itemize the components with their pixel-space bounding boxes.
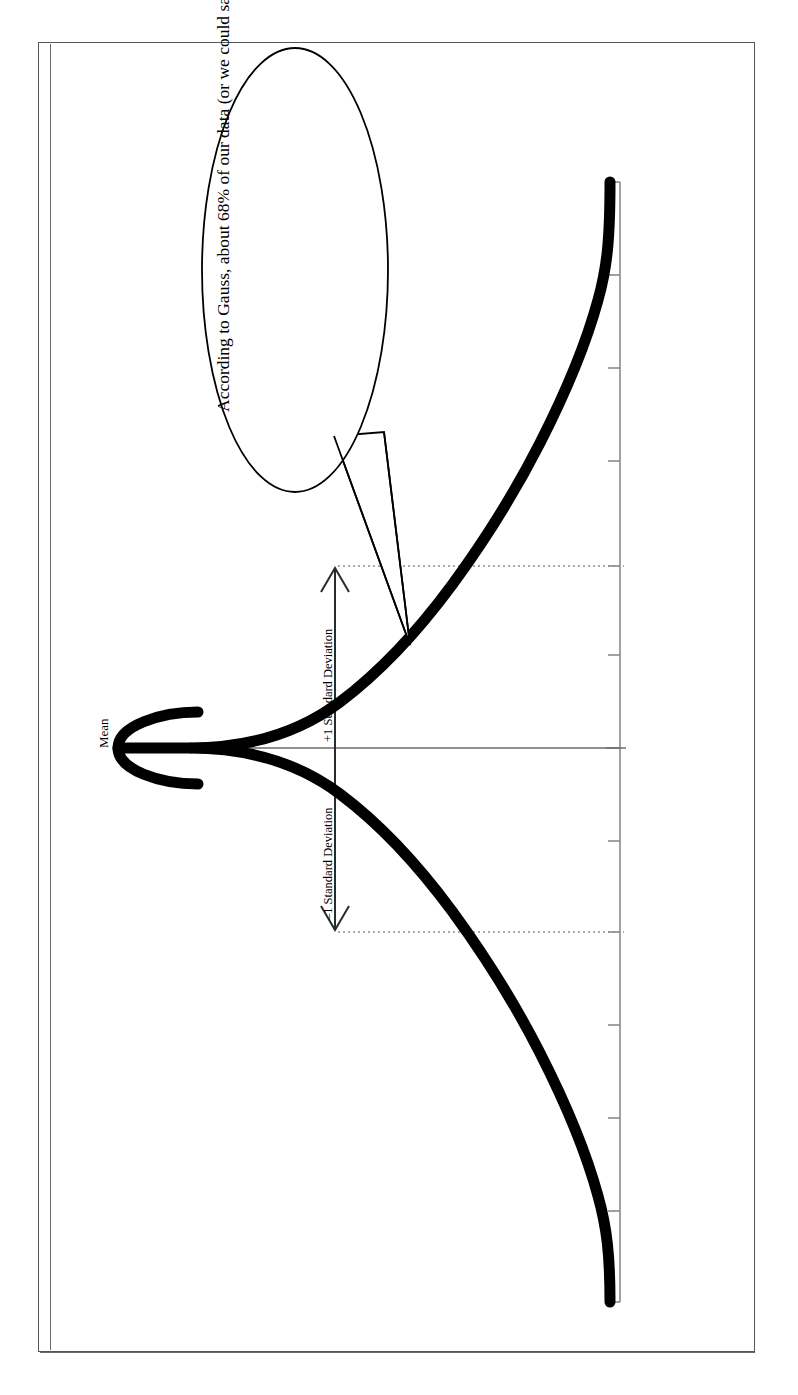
figure-svg	[0, 0, 798, 1395]
plus-one-standard-deviation-label: +1 Standard Deviation	[321, 629, 336, 742]
page-canvas: According to Gauss, about 68% of our dat…	[0, 0, 798, 1395]
mean-label: Mean	[96, 718, 112, 748]
normal-distribution-figure: According to Gauss, about 68% of our dat…	[0, 0, 798, 1395]
minus-one-standard-deviation-label: –1 Standard Deviation	[321, 808, 336, 920]
callout-text: According to Gauss, about 68% of our dat…	[211, 82, 236, 412]
axis-group	[606, 182, 620, 1302]
axis-ticks	[606, 182, 620, 1302]
